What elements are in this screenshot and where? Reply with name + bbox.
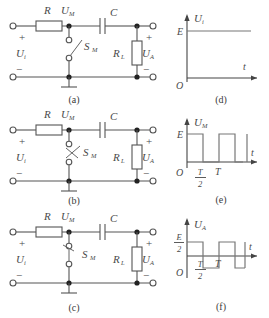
label-f-origin: O xyxy=(176,267,183,278)
label-R: R xyxy=(43,4,51,16)
label-Ui-sub: i xyxy=(24,53,26,60)
label-UM-sub: M xyxy=(68,114,75,121)
label-R: R xyxy=(43,210,51,222)
label-C: C xyxy=(110,110,118,122)
panel-d: U i t E O (d) xyxy=(165,0,269,106)
switch-contact-top xyxy=(66,37,72,43)
label-UM-sub: M xyxy=(68,216,75,223)
sign-in-plus: + xyxy=(19,31,25,43)
resistor-R xyxy=(36,125,62,135)
sign-out-minus: − xyxy=(143,63,149,75)
label-RL: R xyxy=(112,151,120,163)
terminal-out-neg xyxy=(150,74,156,80)
resistor-RL xyxy=(132,41,142,65)
label-RL-sub: L xyxy=(120,53,125,60)
label-f-xtick2: T xyxy=(215,258,222,269)
panel-b: R U M C + U i − S M R L + U A − (b) xyxy=(0,106,165,206)
label-Ui-sub: i xyxy=(24,259,26,266)
label-e-xtick2: T xyxy=(215,166,222,177)
label-f-ytick-num: E xyxy=(175,232,182,242)
switch-blade xyxy=(66,146,80,158)
label-e-origin: O xyxy=(176,167,183,178)
label-f-xlabel: t xyxy=(249,241,252,252)
node-output-return xyxy=(134,74,139,79)
label-f-xtick1-den: 2 xyxy=(198,271,203,281)
label-UA-sub: A xyxy=(149,53,154,60)
label-e-ytick-E: E xyxy=(176,129,183,140)
caption-d: (d) xyxy=(215,94,227,106)
label-d-origin: O xyxy=(176,80,183,91)
sign-in-minus: − xyxy=(16,167,22,179)
label-e-xlabel: t xyxy=(251,147,254,158)
label-C: C xyxy=(110,6,118,18)
label-SM: S xyxy=(83,146,89,158)
terminal-out-pos xyxy=(150,229,156,235)
label-RL-sub: L xyxy=(120,259,125,266)
panel-e: U M t E O T 2 T (e) xyxy=(165,106,269,206)
caption-c: (c) xyxy=(68,302,79,314)
node-output-return xyxy=(134,280,139,285)
label-RL: R xyxy=(112,253,120,265)
label-SM: S xyxy=(84,40,90,52)
sign-out-plus: + xyxy=(146,31,152,43)
terminal-in-pos xyxy=(10,229,16,235)
terminal-out-pos xyxy=(150,23,156,29)
panel-f: U A t E 2 O T 2 T (f) xyxy=(165,206,269,318)
label-UM-sub: M xyxy=(68,10,75,17)
label-R: R xyxy=(43,108,51,120)
caption-a: (a) xyxy=(68,94,79,106)
label-e-ylabel-sub: M xyxy=(201,122,208,129)
sign-in-minus: − xyxy=(16,269,22,281)
caption-f: (f) xyxy=(216,301,226,313)
sign-in-plus: + xyxy=(19,135,25,147)
sign-out-minus: − xyxy=(143,167,149,179)
terminal-in-pos xyxy=(10,127,16,133)
caption-e: (e) xyxy=(215,194,226,206)
switch-contact-top xyxy=(66,141,72,147)
terminal-out-pos xyxy=(150,127,156,133)
label-e-xtick1-den: 2 xyxy=(198,179,203,189)
node-output-return xyxy=(134,178,139,183)
y-axis-arrow-e xyxy=(184,118,189,125)
label-UA-sub: A xyxy=(149,157,154,164)
label-SM-sub: M xyxy=(91,46,98,53)
label-SM: S xyxy=(82,248,88,260)
resistor-R xyxy=(36,227,62,237)
switch-contact-bottom xyxy=(66,159,72,165)
y-axis-arrow-d xyxy=(184,14,189,21)
label-e-xtick1-num: T xyxy=(198,167,204,177)
label-d-xlabel: t xyxy=(243,61,246,72)
x-axis-arrow-d xyxy=(251,75,257,80)
sign-in-plus: + xyxy=(19,237,25,249)
trace-e xyxy=(187,134,243,162)
resistor-RL xyxy=(132,145,142,169)
label-f-ytick-den: 2 xyxy=(177,244,182,254)
switch-contact-bottom xyxy=(66,261,72,267)
label-SM-sub: M xyxy=(90,152,97,159)
label-UA-sub: A xyxy=(149,259,154,266)
sign-in-minus: − xyxy=(16,63,22,75)
switch-contact-bottom xyxy=(66,55,72,61)
resistor-RL xyxy=(132,247,142,271)
sign-out-plus: + xyxy=(146,237,152,249)
panel-a: R U M C + U i − S M R L + U A − (a) xyxy=(0,0,165,106)
terminal-out-neg xyxy=(150,178,156,184)
switch-blade xyxy=(70,40,82,56)
x-axis-arrow-e xyxy=(251,159,257,164)
label-f-ylabel-sub: A xyxy=(201,224,206,231)
label-d-ytick-E: E xyxy=(176,26,183,37)
label-RL: R xyxy=(112,47,120,59)
y-axis-arrow-f xyxy=(184,218,189,225)
label-SM-sub: M xyxy=(89,254,96,261)
label-RL-sub: L xyxy=(120,157,125,164)
label-C: C xyxy=(110,212,118,224)
label-Ui-sub: i xyxy=(24,157,26,164)
terminal-in-pos xyxy=(10,23,16,29)
sign-out-minus: − xyxy=(143,269,149,281)
label-d-ylabel-sub: i xyxy=(202,18,204,25)
sign-out-plus: + xyxy=(146,135,152,147)
terminal-out-neg xyxy=(150,280,156,286)
x-axis-arrow-f xyxy=(251,253,257,258)
panel-c: R U M C + U i − S M R L + U A − (c) xyxy=(0,206,165,318)
resistor-R xyxy=(36,21,62,31)
